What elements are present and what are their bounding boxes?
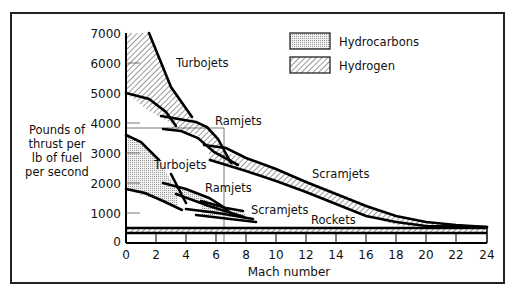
chart-svg: 7000 6000 5000 4000 3000 2000 1000 0 [0,0,516,297]
label-turbojets-hydrocarbons: Turbojets [153,158,206,172]
y-tick-1000: 1000 [90,207,121,221]
label-scramjets-hydrogen: Scramjets [312,167,369,181]
x-ticks [156,233,456,243]
x-axis-label: Mach number [248,265,331,279]
label-ramjets-hydrocarbons: Ramjets [205,181,252,195]
area-turbojets-hydrogen [126,33,195,126]
label-turbojets-hydrogen: Turbojets [175,56,228,70]
x-tick-16: 16 [358,248,373,262]
y-tick-4000: 4000 [90,117,121,131]
y-axis: 7000 6000 5000 4000 3000 2000 1000 0 [90,27,121,249]
y-tick-3000: 3000 [90,147,121,161]
y-tick-0: 0 [113,235,121,249]
x-tick-2: 2 [152,248,160,262]
x-tick-12: 12 [298,248,313,262]
x-tick-24: 24 [479,248,494,262]
legend-swatch-hydrogen [290,57,330,73]
x-axis: 0 2 4 6 8 10 12 14 16 18 20 22 24 [122,248,494,262]
y-tick-6000: 6000 [90,57,121,71]
x-tick-8: 8 [242,248,250,262]
x-tick-22: 22 [448,248,463,262]
x-tick-18: 18 [388,248,403,262]
x-tick-4: 4 [182,248,190,262]
y-tick-2000: 2000 [90,177,121,191]
label-scramjets-hydrocarbons: Scramjets [251,203,308,217]
label-ramjets-hydrogen: Ramjets [215,114,262,128]
x-tick-20: 20 [418,248,433,262]
y-tick-5000: 5000 [90,87,121,101]
x-tick-0: 0 [122,248,130,262]
label-rockets: Rockets [311,213,356,227]
legend-swatch-hydrocarbons [290,33,330,49]
legend-label-hydrogen: Hydrogen [339,59,395,73]
legend: Hydrocarbons Hydrogen [290,33,419,73]
x-tick-14: 14 [328,248,343,262]
legend-label-hydrocarbons: Hydrocarbons [339,35,419,49]
x-tick-10: 10 [268,248,283,262]
x-tick-6: 6 [212,248,220,262]
y-tick-7000: 7000 [90,27,121,41]
